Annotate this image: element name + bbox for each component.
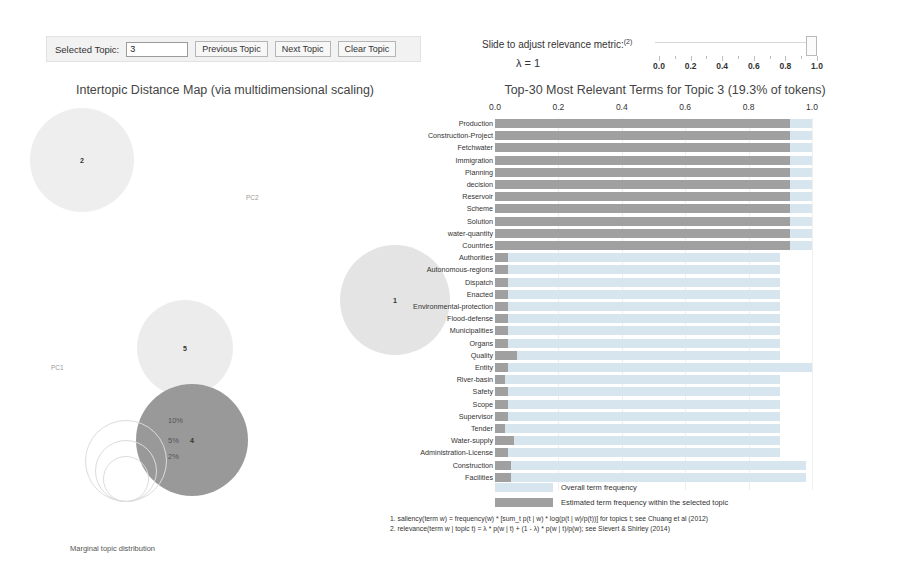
- barchart-row[interactable]: Water-supply: [390, 435, 897, 446]
- topic-controls-bar: Selected Topic: Previous Topic Next Topi…: [46, 36, 421, 62]
- barchart-term-label[interactable]: water-quantity: [448, 228, 493, 239]
- barchart-row[interactable]: Scheme: [390, 203, 897, 214]
- bar-topic-frequency: [495, 375, 505, 384]
- barchart-row[interactable]: Planning: [390, 167, 897, 178]
- barchart-row[interactable]: Production: [390, 118, 897, 129]
- barchart-footnotes: 1. saliency(term w) = frequency(w) * [su…: [390, 514, 860, 534]
- barchart-term-label[interactable]: Organs: [469, 338, 493, 349]
- barchart-term-label[interactable]: Enacted: [467, 289, 493, 300]
- barchart-term-label[interactable]: Planning: [465, 167, 493, 178]
- barchart-term-label[interactable]: Reservoir: [462, 191, 493, 202]
- barchart-row[interactable]: Quality: [390, 350, 897, 361]
- barchart-term-label[interactable]: Dispatch: [465, 277, 493, 288]
- barchart-term-label[interactable]: Water-supply: [451, 435, 493, 446]
- barchart-row[interactable]: Safety: [390, 386, 897, 397]
- bar-topic-frequency: [495, 461, 511, 470]
- bar-topic-frequency: [495, 290, 508, 299]
- slider-tick-label: 0.0: [653, 61, 665, 71]
- barchart-term-label[interactable]: decision: [467, 179, 493, 190]
- intertopic-map-title: Intertopic Distance Map (via multidimens…: [0, 83, 450, 97]
- barchart-term-label[interactable]: Immigration: [455, 155, 493, 166]
- barchart-row[interactable]: Environmental-protection: [390, 301, 897, 312]
- barchart-term-label[interactable]: Scope: [473, 399, 493, 410]
- next-topic-button[interactable]: Next Topic: [275, 41, 331, 57]
- barchart-row[interactable]: Dispatch: [390, 277, 897, 288]
- barchart-term-label[interactable]: Facilities: [465, 472, 493, 483]
- marginal-size-label: 5%: [168, 436, 179, 445]
- barchart-row[interactable]: Immigration: [390, 155, 897, 166]
- barchart-row[interactable]: Reservoir: [390, 191, 897, 202]
- selected-topic-input[interactable]: [126, 42, 188, 57]
- barchart-term-label[interactable]: Tender: [471, 423, 493, 434]
- barchart-term-label[interactable]: Solution: [467, 216, 493, 227]
- barchart-term-label[interactable]: Quality: [471, 350, 493, 361]
- bar-overall-frequency: [495, 461, 806, 470]
- barchart-row[interactable]: Flood-defense: [390, 313, 897, 324]
- barchart-term-label[interactable]: Safety: [473, 386, 493, 397]
- barchart-term-label[interactable]: Municipalities: [450, 325, 493, 336]
- barchart-row[interactable]: Entity: [390, 362, 897, 373]
- topic-bubble-label: 2: [80, 157, 84, 164]
- barchart-row[interactable]: Countries: [390, 240, 897, 251]
- barchart-row[interactable]: Municipalities: [390, 325, 897, 336]
- barchart-term-label[interactable]: Construction: [453, 460, 493, 471]
- lambda-slider-handle[interactable]: [806, 36, 817, 56]
- topic-bubble-5[interactable]: 5: [137, 300, 233, 396]
- barchart-row[interactable]: Tender: [390, 423, 897, 434]
- bar-topic-frequency: [495, 448, 508, 457]
- barchart-row[interactable]: Fetchwater: [390, 142, 897, 153]
- slide-to-adjust-label: Slide to adjust relevance metric:(2): [482, 38, 632, 50]
- barchart-term-label[interactable]: Environmental-protection: [413, 301, 493, 312]
- barchart-term-label[interactable]: Fetchwater: [457, 142, 493, 153]
- barchart-term-label[interactable]: Supervisor: [459, 411, 493, 422]
- lambda-slider-track[interactable]: [655, 42, 814, 51]
- bar-topic-frequency: [495, 412, 508, 421]
- barchart-row[interactable]: Supervisor: [390, 411, 897, 422]
- barchart-row[interactable]: Construction: [390, 460, 897, 471]
- barchart-row[interactable]: Authorities: [390, 252, 897, 263]
- barchart-row[interactable]: Solution: [390, 216, 897, 227]
- barchart-term-label[interactable]: Scheme: [467, 203, 493, 214]
- topic-bubble-2[interactable]: 2: [30, 108, 134, 212]
- barchart-term-label[interactable]: Authorities: [459, 252, 493, 263]
- slider-tick-label: 0.6: [748, 61, 760, 71]
- barchart-row[interactable]: decision: [390, 179, 897, 190]
- barchart-legend-label: Overall term frequency: [561, 482, 637, 493]
- barchart-row[interactable]: Enacted: [390, 289, 897, 300]
- bar-overall-frequency: [495, 302, 780, 311]
- marginal-size-circle-10: [85, 420, 167, 502]
- barchart-row[interactable]: Organs: [390, 338, 897, 349]
- barchart-row[interactable]: Autonomous-regions: [390, 264, 897, 275]
- topic-bubble-label: 4: [190, 437, 194, 444]
- barchart-term-label[interactable]: Countries: [462, 240, 493, 251]
- slider-tick-label: 0.2: [685, 61, 697, 71]
- barchart-term-label[interactable]: Flood-defense: [447, 313, 493, 324]
- bar-topic-frequency: [495, 217, 790, 226]
- pyldavis-app: Selected Topic: Previous Topic Next Topi…: [0, 0, 897, 579]
- bar-topic-frequency: [495, 180, 790, 189]
- barchart-term-label[interactable]: Construction-Project: [428, 130, 493, 141]
- intertopic-distance-map: Intertopic Distance Map (via multidimens…: [0, 78, 450, 578]
- clear-topic-button[interactable]: Clear Topic: [338, 41, 397, 57]
- pc2-axis-label: PC2: [246, 194, 259, 201]
- bar-overall-frequency: [495, 253, 780, 262]
- barchart-row[interactable]: water-quantity: [390, 228, 897, 239]
- barchart-term-label[interactable]: Administration-License: [420, 447, 493, 458]
- bar-overall-frequency: [495, 424, 780, 433]
- barchart-term-label[interactable]: River-basin: [457, 374, 493, 385]
- previous-topic-button[interactable]: Previous Topic: [195, 41, 267, 57]
- barchart-term-label[interactable]: Entity: [475, 362, 493, 373]
- barchart-row[interactable]: River-basin: [390, 374, 897, 385]
- bar-overall-frequency: [495, 326, 780, 335]
- barchart-term-label[interactable]: Production: [459, 118, 493, 129]
- slider-tick-minor: [770, 56, 771, 59]
- barchart-term-label[interactable]: Autonomous-regions: [427, 264, 493, 275]
- barchart-row[interactable]: Administration-License: [390, 447, 897, 458]
- relevance-metric-panel: Slide to adjust relevance metric:(2) λ =…: [470, 34, 870, 82]
- barchart-legend-label: Estimated term frequency within the sele…: [561, 497, 728, 508]
- slider-tick-label: 0.4: [716, 61, 728, 71]
- barchart-row[interactable]: Construction-Project: [390, 130, 897, 141]
- barchart-row[interactable]: Scope: [390, 399, 897, 410]
- slider-tick-minor: [801, 56, 802, 59]
- bar-topic-frequency: [495, 302, 508, 311]
